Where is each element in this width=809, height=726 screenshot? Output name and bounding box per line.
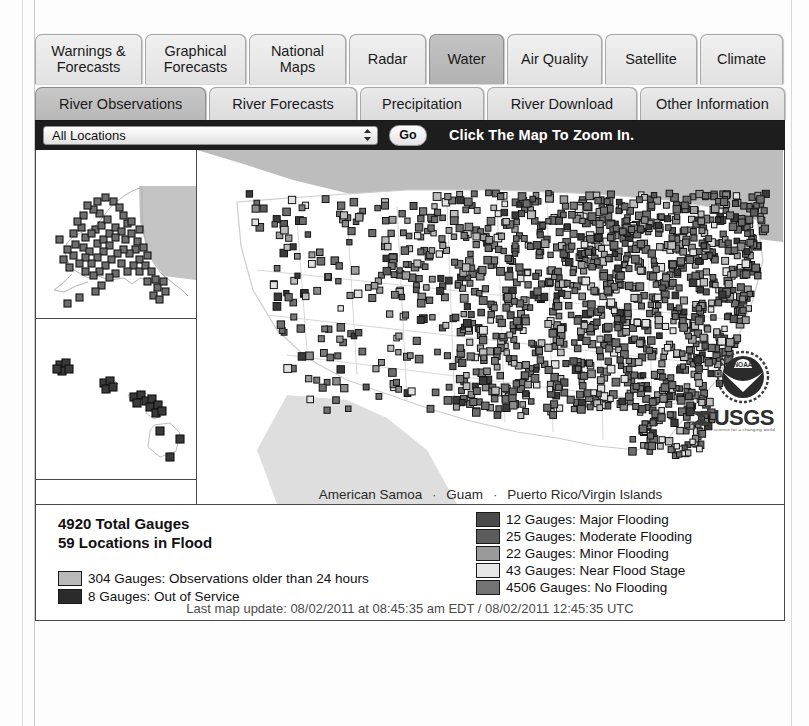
- tab-river-observations[interactable]: River Observations: [35, 87, 206, 120]
- page-root: Warnings & Forecasts Graphical Forecasts…: [0, 0, 809, 726]
- total-gauges-count: 4920 Total Gauges: [58, 514, 456, 533]
- legend-status-list: 304 Gauges: Observations older than 24 h…: [58, 571, 456, 604]
- tab-satellite[interactable]: Satellite: [605, 34, 697, 84]
- legend-swatch-moderate-flooding: [476, 529, 500, 544]
- noaa-logo: NOAA: [716, 350, 770, 404]
- location-select-value: All Locations: [52, 128, 126, 143]
- usgs-logo: USGS science for a changing world: [690, 408, 774, 427]
- legend-label: 12 Gauges: Major Flooding: [506, 512, 669, 527]
- tab-label: Radar: [368, 51, 408, 67]
- legend-item-near-flood-stage: 43 Gauges: Near Flood Stage: [476, 563, 784, 578]
- location-select[interactable]: All Locations: [43, 126, 378, 145]
- secondary-tab-bar: River Observations River Forecasts Preci…: [35, 87, 785, 120]
- tab-label: Precipitation: [382, 96, 462, 112]
- territory-caption: American Samoa · Guam · Puerto Rico/Virg…: [197, 487, 784, 502]
- caption-separator: ·: [487, 487, 504, 502]
- territory-link-guam[interactable]: Guam: [446, 487, 483, 502]
- tab-climate[interactable]: Climate: [700, 34, 783, 84]
- application-frame: Warnings & Forecasts Graphical Forecasts…: [35, 34, 785, 621]
- gauge-marker-layer: [197, 150, 783, 504]
- map-control-bar: All Locations Go Click The Map To Zoom I…: [35, 120, 785, 150]
- tab-label: Graphical Forecasts: [164, 43, 228, 75]
- map-legend: 4920 Total Gauges 59 Locations in Flood …: [35, 505, 785, 621]
- page-edge-rule-left: [22, 0, 23, 726]
- usgs-wave-icon: [690, 409, 712, 427]
- tab-label: Water: [447, 51, 485, 67]
- tab-river-forecasts[interactable]: River Forecasts: [209, 87, 356, 120]
- locations-in-flood-count: 59 Locations in Flood: [58, 533, 456, 552]
- tab-label: River Forecasts: [232, 96, 334, 112]
- hawaii-inset-map[interactable]: [36, 319, 196, 480]
- legend-item-minor-flooding: 22 Gauges: Minor Flooding: [476, 546, 784, 561]
- legend-swatch-major-flooding: [476, 512, 500, 527]
- tab-label: Climate: [717, 51, 766, 67]
- legend-item-observations-older: 304 Gauges: Observations older than 24 h…: [58, 571, 456, 586]
- tab-label: Warnings & Forecasts: [51, 43, 125, 75]
- legend-swatch-minor-flooding: [476, 546, 500, 561]
- legend-swatch-no-flooding: [476, 580, 500, 595]
- inset-spacer: [36, 480, 196, 504]
- tab-other-information[interactable]: Other Information: [640, 87, 785, 120]
- tab-label: River Download: [511, 96, 613, 112]
- primary-tab-bar: Warnings & Forecasts Graphical Forecasts…: [35, 34, 785, 84]
- territory-link-puerto-rico-virgin-islands[interactable]: Puerto Rico/Virgin Islands: [507, 487, 662, 502]
- tab-label: Air Quality: [521, 51, 588, 67]
- hawaii-inset-svg: [36, 319, 196, 479]
- territory-link-american-samoa[interactable]: American Samoa: [319, 487, 423, 502]
- tab-water[interactable]: Water: [429, 34, 504, 84]
- spinner-up-down-icon[interactable]: [360, 128, 375, 143]
- tab-radar[interactable]: Radar: [349, 34, 426, 84]
- tab-warnings-forecasts[interactable]: Warnings & Forecasts: [35, 34, 142, 84]
- legend-swatch-observations-older: [58, 571, 82, 586]
- legend-swatch-near-flood-stage: [476, 563, 500, 578]
- legend-item-major-flooding: 12 Gauges: Major Flooding: [476, 512, 784, 527]
- tab-label: Other Information: [656, 96, 769, 112]
- tab-river-download[interactable]: River Download: [487, 87, 636, 120]
- tab-precipitation[interactable]: Precipitation: [360, 87, 485, 120]
- last-map-update: Last map update: 08/02/2011 at 08:45:35 …: [36, 601, 784, 616]
- tab-label: Satellite: [625, 51, 677, 67]
- caption-separator: ·: [426, 487, 443, 502]
- svg-text:NOAA: NOAA: [733, 361, 752, 368]
- legend-label: 304 Gauges: Observations older than 24 h…: [88, 571, 369, 586]
- go-button-label: Go: [399, 128, 416, 142]
- legend-label: 25 Gauges: Moderate Flooding: [506, 529, 692, 544]
- legend-label: 4506 Gauges: No Flooding: [506, 580, 667, 595]
- tab-national-maps[interactable]: National Maps: [249, 34, 346, 84]
- legend-item-moderate-flooding: 25 Gauges: Moderate Flooding: [476, 529, 784, 544]
- map-area: NOAA USGS science for a changing world A…: [35, 150, 785, 505]
- tab-air-quality[interactable]: Air Quality: [507, 34, 602, 84]
- tab-label: River Observations: [59, 96, 182, 112]
- go-button[interactable]: Go: [389, 125, 427, 146]
- conus-map[interactable]: NOAA USGS science for a changing world A…: [197, 150, 784, 504]
- map-zoom-hint: Click The Map To Zoom In.: [449, 127, 634, 143]
- alaska-inset-svg: [36, 150, 196, 318]
- legend-label: 22 Gauges: Minor Flooding: [506, 546, 669, 561]
- alaska-inset-map[interactable]: [36, 150, 196, 319]
- tab-graphical-forecasts[interactable]: Graphical Forecasts: [145, 34, 246, 84]
- legend-item-no-flooding: 4506 Gauges: No Flooding: [476, 580, 784, 595]
- legend-label: 43 Gauges: Near Flood Stage: [506, 563, 685, 578]
- usgs-wordmark: USGS: [714, 408, 774, 427]
- page-edge-rule-right: [791, 0, 792, 726]
- usgs-tagline: science for a changing world: [714, 427, 775, 432]
- map-insets-column: [36, 150, 197, 504]
- tab-label: National Maps: [271, 43, 324, 75]
